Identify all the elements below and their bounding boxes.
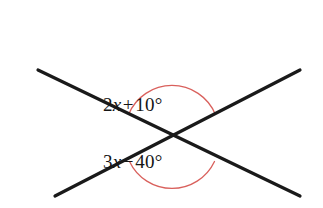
upper-angle-operator: + xyxy=(121,94,135,115)
lower-angle-constant: 40° xyxy=(135,151,162,172)
upper-angle-label: 2x+10° xyxy=(103,95,162,114)
geometry-diagram: 2x+10° 3x−40° xyxy=(0,0,323,208)
lower-angle-label: 3x−40° xyxy=(103,152,162,171)
upper-angle-coefficient: 2 xyxy=(103,94,113,115)
lower-angle-operator: − xyxy=(121,151,135,172)
lower-angle-coefficient: 3 xyxy=(103,151,113,172)
upper-angle-constant: 10° xyxy=(135,94,162,115)
